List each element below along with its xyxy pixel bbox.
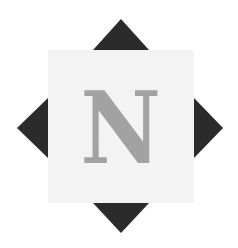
logo-letter: N <box>81 78 161 178</box>
right-triangle-icon <box>194 98 223 158</box>
left-triangle-icon <box>17 98 48 158</box>
bottom-triangle-icon <box>93 203 149 233</box>
logo-square: N <box>48 50 194 203</box>
top-triangle-icon <box>93 19 149 50</box>
n-logo: N <box>0 0 238 248</box>
